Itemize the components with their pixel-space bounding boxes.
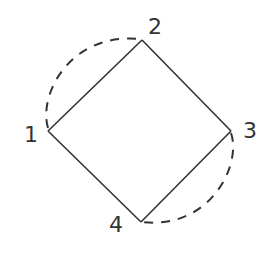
edge-3-4 [141, 131, 231, 222]
edge-2-3 [142, 40, 231, 131]
node-label-4: 4 [109, 212, 123, 237]
node-label-1: 1 [24, 122, 38, 147]
node-label-3: 3 [243, 118, 257, 143]
edge-1-2 [48, 40, 142, 131]
dashed-arc-1-2 [46, 38, 140, 128]
node-label-2: 2 [148, 14, 162, 39]
graph-diagram: 1 2 3 4 [0, 0, 277, 253]
edge-4-1 [48, 131, 141, 222]
dashed-arc-3-4 [142, 133, 233, 223]
